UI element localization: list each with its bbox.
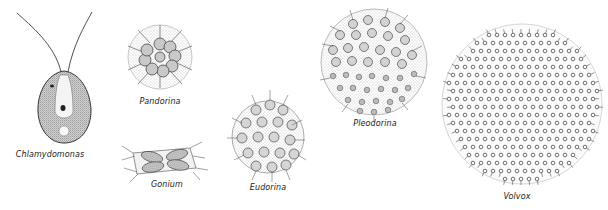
algae-illustration [0,0,608,210]
label-pleodorina: Pleodorina [353,119,396,128]
label-chlamydomonas: Chlamydomonas [16,150,84,159]
gonium-drawing [122,142,208,182]
eudorina-drawing [227,90,306,182]
volvox-drawing [442,24,603,185]
pleodorina-drawing [320,8,427,122]
label-volvox: Volvox [503,192,530,201]
label-eudorina: Eudorina [250,183,286,192]
label-pandorina: Pandorina [139,97,180,106]
chlamydomonas-drawing [17,12,92,143]
label-gonium: Gonium [151,180,183,189]
pandorina-drawing [128,25,192,89]
